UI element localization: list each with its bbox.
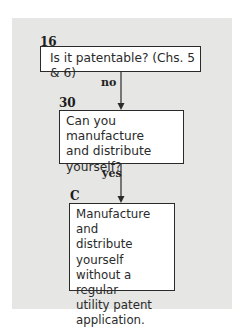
node-30-box: Can you manufacture and distribute yours… <box>59 110 184 164</box>
arrowhead-icon <box>118 196 125 203</box>
node-16-box: Is it patentable? (Chs. 5 & 6) <box>40 46 201 72</box>
node-30-id: 30 <box>59 97 76 109</box>
node-30-line-2: and distribute <box>66 144 183 159</box>
node-30-line-1: Can you manufacture <box>66 114 183 144</box>
node-c-line-2: distribute yourself <box>76 237 174 267</box>
edge-label-no: no <box>101 76 116 89</box>
edge-label-yes: yes <box>102 167 122 180</box>
node-30-line-3: yourself? <box>66 160 183 175</box>
node-c-line-4: utility patent <box>76 298 174 313</box>
node-c-id: C <box>70 190 80 202</box>
node-c-box: Manufacture and distribute yourself with… <box>69 203 175 291</box>
node-c-line-3: without a regular <box>76 268 174 298</box>
node-c-line-5: application. <box>76 313 174 328</box>
node-c-line-1: Manufacture and <box>76 207 174 237</box>
arrowhead-icon <box>118 103 125 110</box>
